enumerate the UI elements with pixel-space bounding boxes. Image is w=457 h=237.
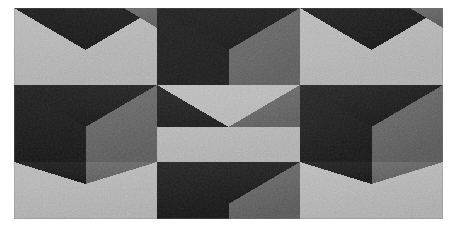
artboard: Tumbling Blocks Optical Pattern Monochro… — [0, 0, 457, 237]
tile-r1c1 — [14, 8, 157, 85]
tile-r2c1 — [14, 85, 157, 162]
tile-row-2 — [14, 85, 443, 162]
tile-r1c2 — [157, 8, 300, 85]
tile-row-3 — [14, 162, 443, 219]
artwork-title: Tumbling Blocks Optical Pattern — [0, 0, 1, 1]
tile-r3c3 — [300, 162, 443, 219]
tile-r3c2 — [157, 162, 300, 219]
tile-r2c2 — [157, 85, 300, 162]
tile-r1c3 — [300, 8, 443, 85]
tumbling-blocks-svg — [14, 8, 443, 219]
tile-r3c1 — [14, 162, 157, 219]
tile-r2c3 — [300, 85, 443, 162]
artwork-description: Monochrome geometric op-art panel of int… — [0, 0, 1, 1]
tile-row-1 — [14, 8, 443, 85]
pattern-panel — [14, 8, 443, 219]
